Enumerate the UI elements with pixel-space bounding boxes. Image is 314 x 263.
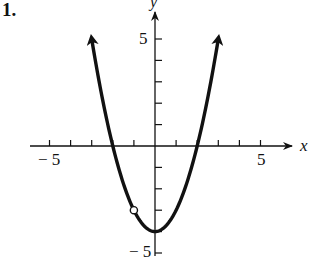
- x-axis-label: x: [300, 137, 308, 154]
- open-circle-point: [130, 207, 137, 214]
- y-axis-label: y: [150, 0, 157, 10]
- parabola-graph: [0, 0, 314, 263]
- y-tick-label-5: 5: [139, 30, 148, 47]
- problem-number: 1.: [2, 0, 16, 19]
- x-tick-label-5: 5: [257, 151, 266, 168]
- y-tick-label-neg5: − 5: [129, 243, 151, 260]
- x-tick-label-neg5: − 5: [38, 151, 60, 168]
